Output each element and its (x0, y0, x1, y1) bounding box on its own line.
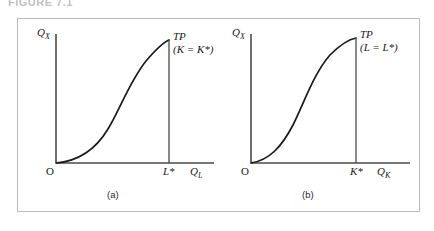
chart-b-x-axis-label-sub: K (385, 171, 390, 180)
chart-a-x-axis-label-sub: L (198, 171, 202, 180)
chart-a-x-axis-label-text: Q (190, 165, 198, 177)
chart-a-curve-condition: (K = K*) (173, 44, 213, 56)
chart-b-curve-label: TP (360, 29, 373, 41)
figure-caption: FIGURE 7.1 (8, 0, 168, 10)
chart-a-y-axis-label-text: Q (37, 26, 45, 38)
chart-a-y-axis-label: QX (37, 27, 50, 42)
chart-a: QX TP (K = K*) O L* QL (a) (18, 19, 219, 211)
chart-a-curve-label: TP (173, 31, 186, 43)
chart-b-panel-caption: (b) (302, 189, 314, 200)
chart-b-tp-curve (251, 38, 356, 163)
chart-b-x-axis-label-text: Q (377, 165, 385, 177)
chart-a-origin-label: O (46, 166, 54, 178)
chart-b-y-axis-label-sub: X (240, 32, 245, 41)
chart-b-xmarker-label: K* (350, 166, 363, 178)
chart-a-tp-curve (56, 40, 169, 163)
chart-a-xmarker-label: L* (163, 166, 175, 178)
chart-b-origin-label: O (241, 166, 249, 178)
chart-b-x-axis-label: QK (377, 166, 390, 181)
chart-b-curve-condition: (L = L*) (360, 42, 398, 54)
chart-a-y-axis-label-sub: X (45, 32, 50, 41)
chart-b: QX TP (L = L*) O K* QK (b) (214, 19, 415, 211)
chart-a-panel-caption: (a) (107, 189, 119, 200)
figure-panel: QX TP (K = K*) O L* QL (a) QX TP (L = L*… (17, 18, 420, 212)
chart-a-x-axis-label: QL (190, 166, 202, 181)
chart-b-y-axis-label: QX (232, 27, 245, 42)
chart-b-y-axis-label-text: Q (232, 26, 240, 38)
